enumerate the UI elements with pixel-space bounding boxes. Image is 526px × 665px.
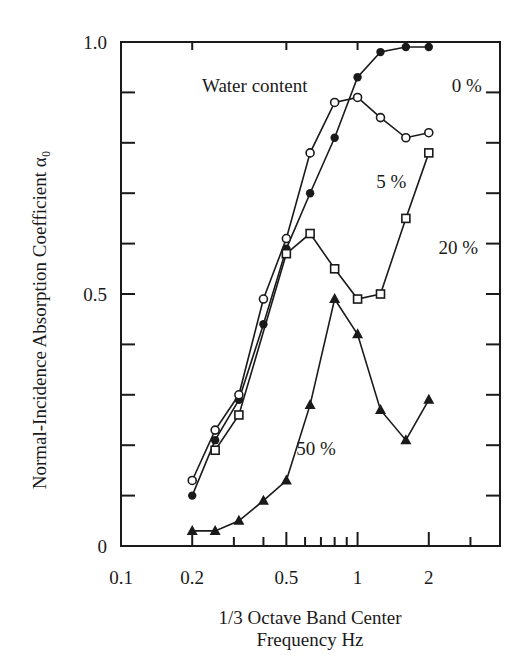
open-square-marker (331, 265, 339, 273)
x-axis-label: 1/3 Octave Band Center Frequency Hz (110, 607, 510, 651)
filled-triangle-marker (329, 293, 340, 303)
open-square-marker (211, 446, 219, 454)
filled-triangle-marker (281, 474, 292, 484)
data-series (187, 43, 435, 535)
filled-triangle-marker (423, 394, 434, 404)
open-circle-marker (331, 98, 339, 106)
filled-triangle-marker (375, 404, 386, 414)
open-square-marker (306, 230, 314, 238)
open-circle-marker (354, 93, 362, 101)
filled-triangle-marker (305, 399, 316, 409)
open-circle-marker (259, 295, 267, 303)
plot-frame (121, 42, 500, 546)
open-square-marker (376, 290, 384, 298)
series-line (192, 47, 429, 496)
annotation-label: 5 % (376, 171, 406, 192)
absorption-chart: 00.51.00.10.20.512 Water content0 %5 %20… (0, 0, 526, 665)
filled-triangle-marker (258, 495, 269, 505)
series-line (215, 153, 429, 450)
plot-axes: 00.51.00.10.20.512 (83, 32, 500, 588)
open-circle-marker (235, 391, 243, 399)
filled-triangle-marker (233, 515, 244, 525)
open-circle-marker (306, 149, 314, 157)
series-5pct (188, 93, 433, 484)
x-tick-label: 2 (424, 567, 434, 588)
annotations: Water content0 %5 %20 %50 % (202, 75, 482, 459)
series-line (192, 299, 429, 531)
open-circle-marker (282, 235, 290, 243)
y-axis-label: Normal-Incidence Absorption Coefficient … (29, 151, 51, 490)
y-tick-label: 1.0 (83, 32, 107, 53)
y-tick-label: 0.5 (83, 284, 107, 305)
x-axis-label-line2: Frequency Hz (110, 629, 510, 651)
open-circle-marker (376, 114, 384, 122)
open-circle-marker (402, 134, 410, 142)
open-square-marker (354, 295, 362, 303)
open-circle-marker (211, 426, 219, 434)
series-0pct (188, 43, 433, 500)
filled-circle-marker (425, 43, 433, 51)
series-20pct (211, 149, 433, 454)
filled-circle-marker (353, 73, 361, 81)
open-square-marker (425, 149, 433, 157)
filled-circle-marker (376, 48, 384, 56)
annotation-label: 50 % (296, 438, 336, 459)
series-50pct (187, 293, 435, 535)
annotation-label: 0 % (452, 75, 482, 96)
open-circle-marker (188, 476, 196, 484)
x-tick-label: 1 (353, 567, 363, 588)
filled-circle-marker (330, 134, 338, 142)
open-square-marker (282, 250, 290, 258)
open-circle-marker (425, 129, 433, 137)
open-square-marker (235, 411, 243, 419)
x-axis-label-line1: 1/3 Octave Band Center (110, 607, 510, 629)
filled-circle-marker (306, 189, 314, 197)
x-tick-label: 0.2 (180, 567, 204, 588)
y-tick-label: 0 (98, 536, 108, 557)
x-tick-label: 0.5 (274, 567, 298, 588)
annotation-label: 20 % (439, 237, 479, 258)
filled-circle-marker (188, 491, 196, 499)
annotation-label: Water content (202, 75, 308, 96)
filled-triangle-marker (187, 525, 198, 535)
x-tick-label: 0.1 (109, 567, 133, 588)
open-square-marker (402, 214, 410, 222)
filled-circle-marker (402, 43, 410, 51)
